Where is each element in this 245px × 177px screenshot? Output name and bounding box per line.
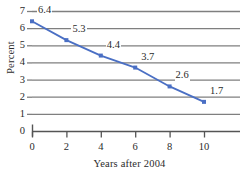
data-point-label: 6.4 (37, 5, 52, 16)
y-tick-label: 2 (11, 92, 25, 103)
y-tick-label: 6 (11, 23, 25, 34)
data-point-label: 3.7 (140, 52, 155, 63)
data-point-marker (30, 19, 34, 23)
y-tick-label: 3 (11, 75, 25, 86)
data-point-marker (64, 38, 68, 42)
x-axis-title: Years after 2004 (0, 158, 245, 169)
y-tick-label: 0 (11, 126, 25, 137)
x-tick-label: 0 (20, 142, 44, 153)
data-point-label: 5.3 (71, 24, 86, 35)
y-tick-label: 7 (11, 6, 25, 17)
x-tick-label: 10 (192, 142, 216, 153)
x-tick-label: 2 (54, 142, 78, 153)
x-tick-label: 4 (89, 142, 113, 153)
data-point-marker (99, 54, 103, 58)
data-point-label: 4.4 (106, 40, 121, 51)
x-tick-label: 6 (123, 142, 147, 153)
y-tick-label: 1 (11, 109, 25, 120)
x-tick-label: 8 (158, 142, 182, 153)
data-point-marker (168, 84, 172, 88)
data-point-label: 2.6 (175, 70, 190, 81)
data-point-marker (202, 100, 206, 104)
line-chart: Percent 01234567 0246810 6.45.34.43.72.6… (0, 0, 245, 177)
data-point-marker (133, 66, 137, 70)
y-tick-label: 5 (11, 40, 25, 51)
data-point-label: 1.7 (209, 86, 224, 97)
y-tick-label: 4 (11, 57, 25, 68)
series-line (32, 21, 204, 102)
